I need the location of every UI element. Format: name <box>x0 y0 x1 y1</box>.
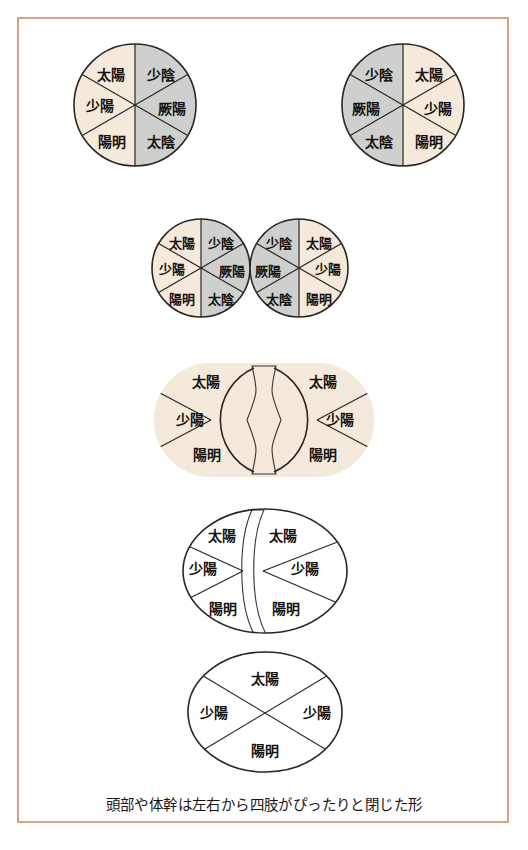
sector-label-yangming: 陽明 <box>169 292 195 307</box>
sector-label-shaoyang-left: 少陽 <box>188 561 217 577</box>
sector-label-shaoyang: 少陽 <box>85 98 114 114</box>
sector-label-shaoyin: 少陰 <box>364 67 394 83</box>
sector-label-shaoyin: 少陰 <box>207 236 235 251</box>
sector-label-yangming: 陽明 <box>306 292 332 307</box>
sector-label-shaoyin: 少陰 <box>146 67 176 83</box>
sector-label-taiyang: 太陽 <box>97 67 125 83</box>
sector-label-yangming-left: 陽明 <box>193 447 221 463</box>
circle-1-left: 太陽 少陰 少陽 厥陽 陽明 太陰 <box>74 44 196 166</box>
circle-2-left: 太陽 少陰 少陽 厥陽 陽明 太陰 <box>152 219 250 317</box>
sector-label-taiyin: 太陰 <box>365 134 394 150</box>
circle-2-right: 少陰 太陽 厥陽 少陽 太陰 陽明 <box>250 219 348 317</box>
sector-label-taiyang-left: 太陽 <box>192 374 220 390</box>
sector-label-taiyang-left: 太陽 <box>208 528 236 544</box>
row-4-closed-band: 太陽 少陽 陽明 太陽 少陽 陽明 <box>183 509 347 634</box>
sector-label-yangming-right: 陽明 <box>309 447 337 463</box>
figure-root: 太陽 少陰 少陽 厥陽 陽明 太陰 少陰 太陽 厥陽 少陽 <box>0 0 528 850</box>
sector-label-taiyang-right: 太陽 <box>269 528 297 544</box>
circle-1-right: 少陰 太陽 厥陽 少陽 太陰 陽明 <box>342 44 464 166</box>
sector-label-yangming: 陽明 <box>98 134 126 150</box>
sector-label-jueyin: 厥陽 <box>255 264 281 279</box>
row-5-single-ellipse: 太陽 少陽 少陽 陽明 <box>188 652 342 772</box>
sector-label-taiyang-right: 太陽 <box>309 374 337 390</box>
sector-label-shaoyang-right: 少陽 <box>290 561 319 577</box>
sector-label-taiyang: 太陽 <box>415 67 443 83</box>
row-1-separate-pair: 太陽 少陰 少陽 厥陽 陽明 太陰 少陰 太陽 厥陽 少陽 <box>74 44 464 166</box>
sector-label-shaoyang-right: 少陽 <box>325 412 354 428</box>
sector-label-shaoyang-right: 少陽 <box>302 705 331 721</box>
row-2-touching-pair: 太陽 少陰 少陽 厥陽 陽明 太陰 少陰 太陽 厥陽 少陽 <box>152 219 348 317</box>
sector-label-yangming: 陽明 <box>251 743 279 759</box>
sector-label-shaoyang: 少陽 <box>158 262 185 277</box>
sector-label-taiyin: 太陰 <box>265 292 293 307</box>
sector-label-jueyin: 厥陽 <box>352 101 380 117</box>
sector-label-shaoyang: 少陽 <box>314 262 341 277</box>
sector-label-shaoyin: 少陰 <box>265 236 293 251</box>
sector-label-shaoyang-left: 少陽 <box>199 705 228 721</box>
sector-label-yangming: 陽明 <box>415 134 443 150</box>
sector-label-taiyin: 太陰 <box>207 292 235 307</box>
sector-label-shaoyang-left: 少陽 <box>175 412 204 428</box>
meridian-diagram-svg: 太陽 少陰 少陽 厥陽 陽明 太陰 少陰 太陽 厥陽 少陽 <box>0 0 528 850</box>
sector-label-yangming-left: 陽明 <box>209 601 237 617</box>
sector-label-taiyang: 太陽 <box>251 671 279 687</box>
sector-label-taiyang: 太陽 <box>168 236 195 251</box>
thin-crescent-band <box>242 510 266 634</box>
sector-label-yangming-right: 陽明 <box>272 601 300 617</box>
figure-caption: 頭部や体幹は左右から四肢がぴったりと閉じた形 <box>106 796 423 813</box>
sector-label-shaoyang: 少陽 <box>423 101 452 117</box>
row-3-overlapping-hourglass: 太陽 少陽 陽明 太陽 少陽 陽明 <box>154 363 374 477</box>
sector-label-taiyang: 太陽 <box>305 236 332 251</box>
sector-label-jueyin: 厥陽 <box>219 264 245 279</box>
sector-label-jueyin: 厥陽 <box>158 101 186 117</box>
sector-label-taiyin: 太陰 <box>147 134 176 150</box>
